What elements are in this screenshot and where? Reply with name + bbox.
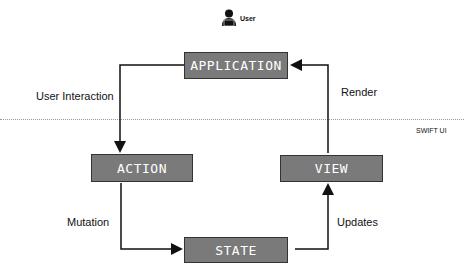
edge-label-user-interaction: User Interaction [36, 90, 114, 102]
actor-label: User [240, 15, 256, 22]
section-label-swift-ui: SWIFT UI [416, 127, 447, 134]
edge-label-render: Render [341, 86, 377, 98]
node-action: ACTION [91, 154, 193, 182]
node-application: APPLICATION [184, 52, 288, 79]
user-laptop-icon [221, 9, 237, 27]
node-view: VIEW [280, 155, 383, 182]
node-state: STATE [184, 237, 288, 263]
edge-label-mutation: Mutation [67, 216, 109, 228]
edge-label-updates: Updates [337, 216, 378, 228]
